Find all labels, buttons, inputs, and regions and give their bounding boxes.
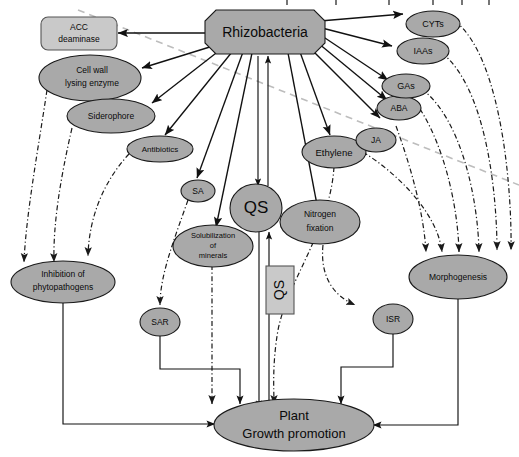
edge-isr-to-plant-growth (341, 334, 393, 404)
diagram-canvas: Rhizobacteria ACC deaminase Cell wall ly… (0, 0, 519, 457)
diagram-svg: Rhizobacteria ACC deaminase Cell wall ly… (0, 0, 519, 457)
node-morphogenesis[interactable]: Morphogenesis (409, 255, 507, 299)
node-cell-wall-lysing-enzyme[interactable]: Cell wall lysing enzyme (39, 55, 141, 101)
node-qs-center[interactable]: QS (230, 184, 282, 232)
node-qs-box[interactable]: QS (266, 266, 294, 314)
node-siderophore-label: Siderophore (88, 111, 135, 121)
node-gas[interactable]: GAs (382, 74, 430, 98)
edge-siderophore-to-inhibition (54, 128, 72, 262)
node-acc-deaminase-label-line1: ACC (70, 22, 88, 32)
node-cyts-label: CYTs (422, 19, 444, 29)
node-solubilization-label-line2: of (210, 241, 217, 250)
edge-rhizobacteria-to-antibiotics (165, 52, 232, 135)
node-aba-label: ABA (390, 103, 407, 113)
edge-sar-to-plant-growth (160, 336, 240, 404)
node-gas-label: GAs (397, 81, 415, 91)
node-sa[interactable]: SA (181, 180, 215, 202)
node-inhibition-label-line1: Inhibition of (41, 269, 85, 279)
node-sar-label: SAR (151, 317, 168, 327)
edge-ja-to-morphogenesis (396, 126, 426, 252)
node-plant-growth-label-line1: Plant (279, 408, 309, 423)
node-cell-wall-label-line2: lysing enzyme (65, 78, 119, 88)
node-iaas[interactable]: IAAs (397, 38, 449, 64)
node-ethylene-label: Ethylene (316, 147, 353, 158)
node-nitrogen-fixation-label-line2: fixation (307, 223, 334, 233)
node-ja[interactable]: JA (356, 128, 396, 152)
edge-rhizobacteria-to-sa (197, 52, 243, 178)
node-isr[interactable]: ISR (373, 304, 413, 334)
node-inhibition-label-line2: phytopathogens (33, 282, 94, 292)
node-qs-center-label: QS (244, 198, 269, 217)
edge-nitrogen-fixation-to-isr (323, 245, 355, 305)
edge-cell-wall-to-inhibition (24, 90, 47, 262)
node-plant-growth-promotion[interactable]: Plant Growth promotion (214, 399, 374, 451)
nitrogen-fixation-ellipse-shape (280, 200, 360, 244)
edge-rhizobacteria-to-siderophore (152, 50, 220, 103)
node-iaas-label: IAAs (413, 46, 433, 56)
node-acc-deaminase-label-line2: deaminase (58, 34, 100, 44)
node-inhibition-of-phytopathogens[interactable]: Inhibition of phytopathogens (11, 261, 115, 303)
node-ja-label: JA (371, 135, 381, 145)
node-antibiotics[interactable]: Antibiotics (127, 136, 193, 162)
node-siderophore[interactable]: Siderophore (67, 99, 155, 133)
edge-inhibition-to-plant-growth (63, 295, 215, 424)
edge-ethylene-to-morphogenesis (363, 152, 442, 252)
node-plant-growth-label-line2: Growth promotion (242, 426, 345, 441)
node-acc-deaminase[interactable]: ACC deaminase (41, 17, 117, 50)
node-aba[interactable]: ABA (377, 96, 421, 120)
edge-rhizobacteria-to-cyts (320, 14, 403, 21)
node-solubilization-label-line1: Solubilization (191, 231, 235, 240)
edge-cyts-to-morphogenesis (455, 21, 511, 250)
edge-group-nitrogen-fixation-to-isr (323, 245, 355, 305)
node-rhizobacteria[interactable]: Rhizobacteria (205, 10, 325, 54)
node-cyts[interactable]: CYTs (406, 11, 460, 37)
plant-growth-ellipse-shape (214, 399, 374, 451)
node-cell-wall-label-line1: Cell wall (76, 65, 108, 75)
node-sa-label: SA (192, 186, 204, 196)
edge-gas-to-morphogenesis (422, 89, 479, 252)
top-edge-cropped-arrow-tails (287, 0, 489, 7)
edge-antibiotics-to-inhibition (88, 154, 129, 256)
node-antibiotics-label: Antibiotics (142, 145, 178, 154)
edge-iaas-to-morphogenesis (442, 53, 497, 250)
node-isr-label: ISR (386, 314, 400, 324)
edge-rhizobacteria-to-nitrogen-fixation (288, 53, 318, 210)
node-nitrogen-fixation-label-line1: Nitrogen (304, 209, 336, 219)
node-morphogenesis-label: Morphogenesis (429, 272, 487, 282)
node-rhizobacteria-label: Rhizobacteria (222, 24, 308, 40)
node-qs-box-label: QS (271, 280, 287, 300)
node-solubilization-of-minerals[interactable]: Solubilization of minerals (173, 225, 253, 267)
node-sar[interactable]: SAR (140, 308, 180, 336)
node-solubilization-label-line3: minerals (199, 251, 228, 260)
node-nitrogen-fixation[interactable]: Nitrogen fixation (280, 200, 360, 244)
edge-rhizobacteria-to-cell-wall (142, 46, 213, 68)
